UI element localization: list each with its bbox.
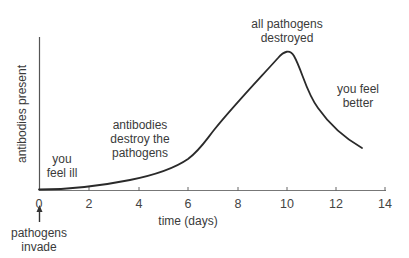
x-tick-label: 2 — [86, 197, 93, 211]
annotation-you-feel-ill: you feel ill — [47, 152, 78, 180]
x-tick-label: 8 — [235, 197, 242, 211]
annotation-pathogens-invade: pathogens invade — [11, 226, 67, 254]
annotation-antibodies-destroy: antibodies destroy the pathogens — [110, 118, 169, 160]
x-tick-label: 0 — [36, 197, 43, 211]
x-tick-label: 14 — [378, 197, 392, 211]
x-axis-label: time (days) — [158, 214, 217, 228]
annotation-you-feel-better: you feel better — [337, 82, 379, 110]
antibody-curve — [39, 52, 362, 190]
x-tick-label: 6 — [185, 197, 192, 211]
x-tick-label: 4 — [136, 197, 143, 211]
x-tick-label: 10 — [280, 197, 294, 211]
y-axis-label: antibodies present — [15, 65, 29, 163]
annotation-all-pathogens-destroyed: all pathogens destroyed — [251, 17, 322, 45]
x-tick-label: 12 — [329, 197, 343, 211]
